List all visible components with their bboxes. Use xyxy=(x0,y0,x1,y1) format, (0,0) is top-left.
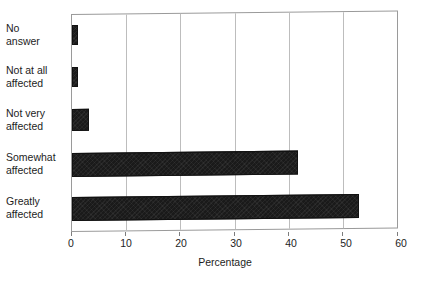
y-label-greatly: Greatly affected xyxy=(6,195,68,220)
tick-label-0: 0 xyxy=(68,237,74,249)
bar-no-answer xyxy=(72,25,78,45)
plot-area xyxy=(71,11,398,232)
tick-mark-40 xyxy=(288,232,289,236)
y-label-not-very: Not very affected xyxy=(6,107,68,132)
y-label-not-at-all: Not at all affected xyxy=(6,64,68,89)
bar-somewhat xyxy=(72,151,298,177)
y-label-somewhat: Somewhat affected xyxy=(6,151,68,176)
bar-greatly xyxy=(72,194,359,221)
x-axis-ticks: 0 10 20 30 40 50 60 xyxy=(71,232,398,254)
y-label-no-answer: No answer xyxy=(6,22,68,47)
tick-label-50: 50 xyxy=(340,237,352,249)
chart-screenshot: No answer Not at all affected Not very a… xyxy=(0,0,422,283)
tick-mark-60 xyxy=(397,232,398,236)
y-axis-labels: No answer Not at all affected Not very a… xyxy=(0,14,68,232)
bars-layer xyxy=(72,12,397,231)
tick-label-20: 20 xyxy=(175,237,187,249)
tick-mark-30 xyxy=(234,232,235,236)
tick-label-10: 10 xyxy=(120,237,132,249)
tick-label-30: 30 xyxy=(230,237,242,249)
tick-mark-10 xyxy=(125,232,126,236)
tick-label-60: 60 xyxy=(395,237,407,249)
bar-not-at-all xyxy=(72,67,78,87)
bar-not-very xyxy=(72,109,89,131)
x-axis-title: Percentage xyxy=(0,256,422,268)
tick-mark-50 xyxy=(342,232,343,236)
tick-label-40: 40 xyxy=(285,237,297,249)
tick-mark-20 xyxy=(179,232,180,236)
tick-mark-0 xyxy=(71,232,72,236)
